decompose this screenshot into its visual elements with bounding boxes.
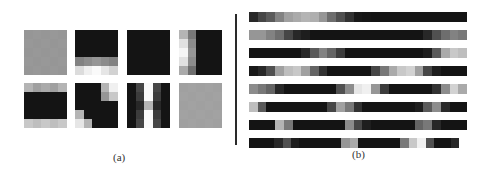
tile-cell — [58, 92, 67, 101]
strip-cell — [354, 102, 363, 112]
strip-cell — [293, 30, 302, 40]
tile-cell — [41, 30, 50, 39]
strip-cell — [371, 84, 380, 94]
tile-cell — [188, 110, 197, 119]
strip-cell — [432, 102, 441, 112]
filter-tile-1 — [24, 30, 67, 75]
tile-cell — [161, 92, 170, 101]
strip-cell — [458, 120, 467, 130]
strip-cell — [380, 12, 389, 22]
tile-cell — [213, 101, 222, 110]
tile-cell — [196, 66, 205, 75]
strip-cell — [415, 12, 424, 22]
feature-strip-5 — [249, 84, 467, 94]
tile-cell — [50, 110, 59, 119]
tile-cell — [127, 48, 136, 57]
strip-cell — [423, 120, 432, 130]
strip-cell — [406, 120, 415, 130]
tile-cell — [33, 30, 42, 39]
strip-cell — [362, 66, 371, 76]
strip-cell — [336, 30, 345, 40]
strip-cell — [397, 84, 406, 94]
strip-cell — [284, 12, 293, 22]
strip-cell — [275, 84, 284, 94]
tile-cell — [101, 48, 110, 57]
tile-cell — [109, 101, 118, 110]
tile-cell — [179, 119, 188, 128]
strip-cell — [249, 66, 258, 76]
strip-cell — [458, 102, 467, 112]
strip-cell — [441, 12, 450, 22]
strip-cell — [275, 102, 284, 112]
tile-cell — [84, 66, 93, 75]
tile-cell — [213, 39, 222, 48]
strip-cell — [249, 138, 257, 148]
strip-cell — [291, 138, 299, 148]
tile-cell — [41, 66, 50, 75]
tile-cell — [213, 92, 222, 101]
strip-cell — [293, 120, 302, 130]
tile-cell — [58, 119, 67, 128]
strip-cell — [406, 84, 415, 94]
tile-cell — [144, 101, 153, 110]
tile-cell — [58, 48, 67, 57]
tile-cell — [179, 48, 188, 57]
tile-cell — [75, 39, 84, 48]
strip-cell — [249, 12, 258, 22]
feature-strip-2 — [249, 30, 467, 40]
tile-cell — [41, 83, 50, 92]
tile-cell — [75, 110, 84, 119]
tile-cell — [84, 48, 93, 57]
strip-cell — [249, 84, 258, 94]
strip-cell — [406, 30, 415, 40]
strip-cell — [354, 48, 363, 58]
tile-cell — [50, 57, 59, 66]
tile-cell — [41, 119, 50, 128]
strip-cell — [389, 102, 398, 112]
tile-cell — [92, 30, 101, 39]
strip-cell — [319, 30, 328, 40]
strip-cell — [258, 12, 267, 22]
tile-cell — [153, 39, 162, 48]
tile-cell — [161, 110, 170, 119]
tile-cell — [161, 101, 170, 110]
tile-cell — [161, 57, 170, 66]
strip-cell — [310, 84, 319, 94]
strip-cell — [406, 48, 415, 58]
tile-cell — [24, 101, 33, 110]
strip-cell — [389, 120, 398, 130]
tile-cell — [161, 83, 170, 92]
strip-cell — [310, 66, 319, 76]
strip-cell — [266, 102, 275, 112]
strip-cell — [258, 30, 267, 40]
strip-cell — [284, 120, 293, 130]
tile-cell — [188, 66, 197, 75]
strip-cell — [450, 30, 459, 40]
tile-cell — [213, 66, 222, 75]
tile-cell — [153, 57, 162, 66]
feature-strip-4 — [249, 66, 467, 76]
strip-cell — [274, 138, 282, 148]
strip-cell — [266, 12, 275, 22]
tile-cell — [205, 66, 214, 75]
tile-cell — [101, 119, 110, 128]
tile-cell — [33, 92, 42, 101]
strip-cell — [275, 120, 284, 130]
strip-cell — [327, 30, 336, 40]
tile-cell — [196, 57, 205, 66]
strip-cell — [258, 102, 267, 112]
strip-cell — [367, 138, 375, 148]
tile-cell — [196, 30, 205, 39]
strip-cell — [354, 66, 363, 76]
strip-cell — [301, 12, 310, 22]
tile-cell — [196, 101, 205, 110]
tile-cell — [127, 66, 136, 75]
strip-cell — [397, 102, 406, 112]
tile-cell — [188, 57, 197, 66]
strip-cell — [275, 66, 284, 76]
strip-cell — [380, 102, 389, 112]
strip-cell — [417, 138, 425, 148]
strip-cell — [341, 138, 349, 148]
strip-cell — [432, 84, 441, 94]
tile-cell — [101, 57, 110, 66]
